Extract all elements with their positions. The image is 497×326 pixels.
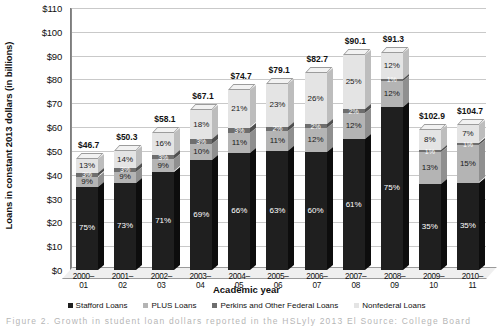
segment-percent-label: 3%	[196, 138, 206, 145]
bar-segment-stafford-loans[interactable]: 75%	[381, 107, 403, 270]
y-axis-tick-label: $10	[18, 241, 62, 252]
y-axis-tick-label: $110	[18, 3, 62, 14]
bar-segment-stafford-loans[interactable]: 63%	[266, 151, 288, 270]
segment-percent-label: 35%	[460, 222, 476, 230]
legend-item-perkins[interactable]: Perkins and Other Federal Loans	[212, 301, 338, 310]
bar-segment-nonfederal-loans[interactable]: 26%	[305, 73, 327, 124]
legend-item-label: Nonfederal Loans	[362, 301, 425, 310]
stacked-bar[interactable]: 7%1%15%35%$104.7	[457, 125, 479, 270]
segment-percent-label: 11%	[232, 139, 247, 147]
segment-percent-label: 11%	[270, 137, 285, 145]
segment-percent-label: 71%	[155, 217, 171, 225]
bar-segment-plus-loans[interactable]: 15%	[457, 145, 479, 182]
stacked-bar[interactable]: 14%3%9%73%$50.3	[114, 151, 136, 270]
stacked-bar[interactable]: 18%3%10%69%$67.1	[190, 110, 212, 270]
bar-total-label: $102.9	[419, 111, 445, 121]
segment-percent-label: 12%	[384, 62, 400, 70]
bar-group[interactable]: 23%2%11%63%$79.1	[266, 84, 291, 271]
segment-percent-label: 9%	[81, 178, 93, 186]
bar-segment-stafford-loans[interactable]: 73%	[114, 183, 136, 270]
bar-segment-plus-loans[interactable]: 11%	[228, 133, 250, 153]
segment-percent-label: 15%	[460, 160, 476, 168]
bar-segment-plus-loans[interactable]: 12%	[343, 113, 365, 139]
legend-item-stafford[interactable]: Stafford Loans	[68, 301, 128, 310]
bar-segment-plus-loans[interactable]: 12%	[381, 81, 403, 107]
bar-segment-side-face	[98, 182, 104, 270]
y-axis-tick-label: $100	[18, 26, 62, 37]
bar-segment-side-face	[288, 146, 294, 270]
stacked-bar[interactable]: 13%3%9%75%$46.7	[76, 159, 98, 270]
bar-segment-nonfederal-loans[interactable]: 16%	[152, 133, 174, 155]
segment-percent-label: 75%	[384, 184, 400, 192]
bar-total-label: $50.3	[116, 132, 137, 142]
segment-percent-label: 12%	[384, 90, 400, 98]
bar-segment-plus-loans[interactable]: 12%	[305, 128, 327, 152]
bar-segment-plus-loans[interactable]: 11%	[266, 131, 288, 152]
y-axis-tick-label: $80	[18, 74, 62, 85]
legend-swatch-icon	[68, 303, 73, 308]
bar-segment-stafford-loans[interactable]: 60%	[305, 152, 327, 270]
bar-group[interactable]: 8%1%13%35%$102.9	[419, 130, 444, 270]
bar-segment-side-face	[136, 178, 142, 270]
stacked-bar[interactable]: 12%1%12%75%$91.3	[381, 53, 403, 270]
segment-percent-label: 13%	[79, 162, 95, 170]
segment-percent-label: 7%	[462, 130, 474, 138]
y-axis-tick-label: $20	[18, 217, 62, 228]
segment-percent-label: 14%	[117, 156, 133, 164]
y-axis-tick-label: $0	[18, 265, 62, 276]
bar-segment-plus-loans[interactable]: 9%	[76, 177, 98, 187]
segment-percent-label: 35%	[422, 223, 438, 231]
bar-segment-plus-loans[interactable]: 13%	[419, 152, 441, 184]
bar-total-label: $91.3	[383, 34, 404, 44]
bar-segment-side-face	[365, 50, 371, 109]
bar-segment-nonfederal-loans[interactable]: 21%	[228, 90, 250, 127]
bar-segment-plus-loans[interactable]: 10%	[190, 144, 212, 160]
bar-segment-stafford-loans[interactable]: 35%	[419, 184, 441, 270]
segment-percent-label: 16%	[155, 140, 171, 148]
bar-group[interactable]: 14%3%9%73%$50.3	[114, 151, 139, 270]
segment-percent-label: 3%	[234, 127, 244, 134]
stacked-bar[interactable]: 21%3%11%66%$74.7	[228, 90, 250, 270]
segment-percent-label: 73%	[117, 222, 133, 230]
bar-group[interactable]: 18%3%10%69%$67.1	[190, 110, 215, 270]
bar-group[interactable]: 13%3%9%75%$46.7	[76, 159, 101, 270]
stacked-bar[interactable]: 8%1%13%35%$102.9	[419, 130, 441, 270]
bar-segment-side-face	[327, 147, 333, 270]
bar-total-label: $104.7	[457, 106, 483, 116]
legend-item-nonfed[interactable]: Nonfederal Loans	[354, 301, 425, 310]
bar-segment-side-face	[250, 148, 256, 270]
bar-segment-plus-loans[interactable]: 9%	[114, 172, 136, 183]
stacked-bar[interactable]: 26%2%12%60%$82.7	[305, 73, 327, 270]
legend-item-plus[interactable]: PLUS Loans	[143, 301, 196, 310]
bar-group[interactable]: 16%3%9%71%$58.1	[152, 133, 177, 270]
segment-percent-label: 18%	[193, 121, 209, 129]
bar-segment-stafford-loans[interactable]: 66%	[228, 153, 250, 270]
bar-group[interactable]: 21%3%11%66%$74.7	[228, 90, 253, 270]
bar-segment-stafford-loans[interactable]: 69%	[190, 160, 212, 270]
bar-total-label: $90.1	[345, 36, 366, 46]
stacked-bar[interactable]: 16%3%9%71%$58.1	[152, 133, 174, 270]
bar-segment-side-face	[365, 134, 371, 270]
segment-percent-label: 2%	[349, 108, 359, 115]
bar-total-label: $67.1	[192, 91, 213, 101]
bar-segment-nonfederal-loans[interactable]: 18%	[190, 110, 212, 139]
bar-segment-stafford-loans[interactable]: 75%	[76, 187, 98, 270]
bar-group[interactable]: 25%2%12%61%$90.1	[343, 55, 368, 270]
bar-segment-stafford-loans[interactable]: 71%	[152, 172, 174, 270]
bar-segment-stafford-loans[interactable]: 61%	[343, 139, 365, 270]
bar-segment-plus-loans[interactable]: 9%	[152, 159, 174, 171]
stacked-bar[interactable]: 25%2%12%61%$90.1	[343, 55, 365, 270]
bar-segment-side-face	[327, 68, 333, 124]
bar-segment-side-face	[403, 102, 409, 270]
segment-percent-label: 12%	[308, 136, 324, 144]
bar-segment-nonfederal-loans[interactable]: 23%	[266, 84, 288, 127]
bar-top-face	[381, 47, 408, 53]
stacked-bar[interactable]: 23%2%11%63%$79.1	[266, 84, 288, 271]
bar-group[interactable]: 26%2%12%60%$82.7	[305, 73, 330, 270]
legend-swatch-icon	[143, 303, 148, 308]
bar-segment-nonfederal-loans[interactable]: 25%	[343, 55, 365, 109]
bar-group[interactable]: 12%1%12%75%$91.3	[381, 53, 406, 270]
bar-segment-nonfederal-loans[interactable]: 12%	[381, 53, 403, 79]
bar-segment-stafford-loans[interactable]: 35%	[457, 183, 479, 270]
bar-group[interactable]: 7%1%15%35%$104.7	[457, 125, 482, 270]
